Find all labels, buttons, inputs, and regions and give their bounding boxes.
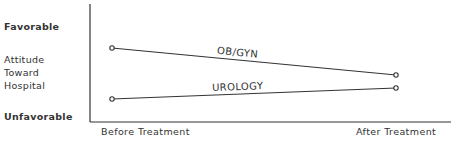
chart-plot: OB/GYN UROLOGY (0, 0, 471, 143)
series-urology: UROLOGY (110, 80, 398, 101)
series-obgyn: OB/GYN (110, 45, 398, 77)
data-point (110, 97, 114, 101)
data-point (394, 86, 398, 90)
series-label-urology: UROLOGY (212, 80, 264, 93)
data-point (394, 73, 398, 77)
data-point (110, 46, 114, 50)
series-label-obgyn: OB/GYN (217, 45, 259, 60)
